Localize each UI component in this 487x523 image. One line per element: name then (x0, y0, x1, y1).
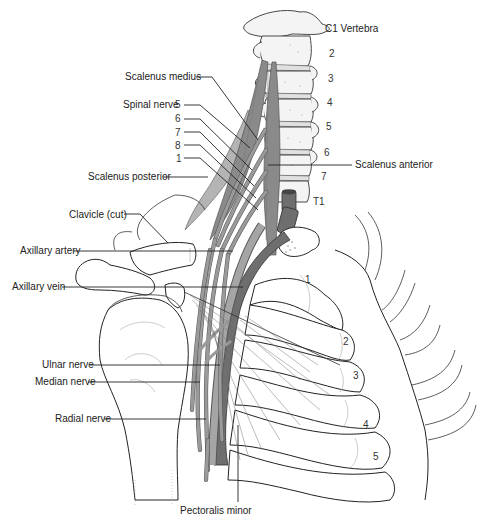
label-scalenus-posterior: Scalenus posterior (88, 171, 171, 182)
clavicle-lateral (130, 242, 196, 275)
vertebra-number-4: 4 (327, 97, 333, 108)
anatomy-figure: 1 2 3 4 5 (0, 0, 487, 523)
rib-number-2: 2 (343, 336, 349, 347)
vertebra-number-6: 6 (324, 147, 330, 158)
spinal-nerve-number-5: 5 (175, 99, 181, 110)
vertebra-number-t1: T1 (313, 196, 325, 207)
label-spinal-nerve: Spinal nerve (123, 99, 179, 110)
spinal-nerve-number-7: 7 (175, 127, 181, 138)
vertebra-number-5: 5 (326, 121, 332, 132)
label-axillary-vein: Axillary vein (12, 281, 65, 292)
label-axillary-artery: Axillary artery (20, 245, 81, 256)
humerus (99, 298, 188, 500)
shoulder-bones (76, 195, 205, 505)
spinal-nerve-number-1: 1 (176, 153, 182, 164)
rib-number-5: 5 (373, 451, 379, 462)
vertebra-number-7: 7 (321, 171, 327, 182)
label-c1-vertebra: C1 Vertebra (325, 23, 379, 34)
vertebra-number-2: 2 (329, 48, 335, 59)
label-scalenus-medius: Scalenus medius (125, 71, 201, 82)
spinal-nerve-number-8: 8 (175, 140, 181, 151)
label-pectoralis-minor: Pectoralis minor (180, 505, 252, 516)
rib-number-1: 1 (305, 274, 311, 285)
label-clavicle-cut: Clavicle (cut) (69, 209, 127, 220)
spinal-nerve-number-6: 6 (175, 113, 181, 124)
label-ulnar-nerve: Ulnar nerve (42, 359, 94, 370)
vertebra-number-3: 3 (328, 73, 334, 84)
label-radial-nerve: Radial nerve (55, 413, 112, 424)
rib-number-3: 3 (353, 370, 359, 381)
rib-number-4: 4 (363, 419, 369, 430)
label-scalenus-anterior: Scalenus anterior (355, 159, 433, 170)
label-median-nerve: Median nerve (35, 376, 96, 387)
